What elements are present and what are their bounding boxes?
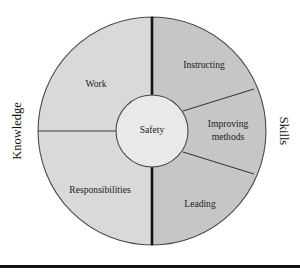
safety-wheel-figure: Safety Work Responsibilities Instructing… bbox=[0, 0, 300, 274]
side-label-knowledge: Knowledge bbox=[10, 102, 24, 160]
wheel-diagram: Safety Work Responsibilities Instructing… bbox=[0, 0, 300, 274]
segment-label-improving-methods-line1: Improving bbox=[208, 118, 249, 129]
segment-label-work: Work bbox=[85, 78, 106, 89]
segment-label-leading: Leading bbox=[184, 198, 216, 209]
side-label-skills: Skills bbox=[277, 117, 291, 146]
segment-label-instructing: Instructing bbox=[183, 59, 225, 70]
segment-label-improving-methods-line2: methods bbox=[212, 131, 245, 142]
bottom-rule-divider bbox=[0, 265, 300, 268]
center-hub-label: Safety bbox=[140, 124, 165, 135]
segment-label-responsibilities: Responsibilities bbox=[69, 184, 131, 195]
